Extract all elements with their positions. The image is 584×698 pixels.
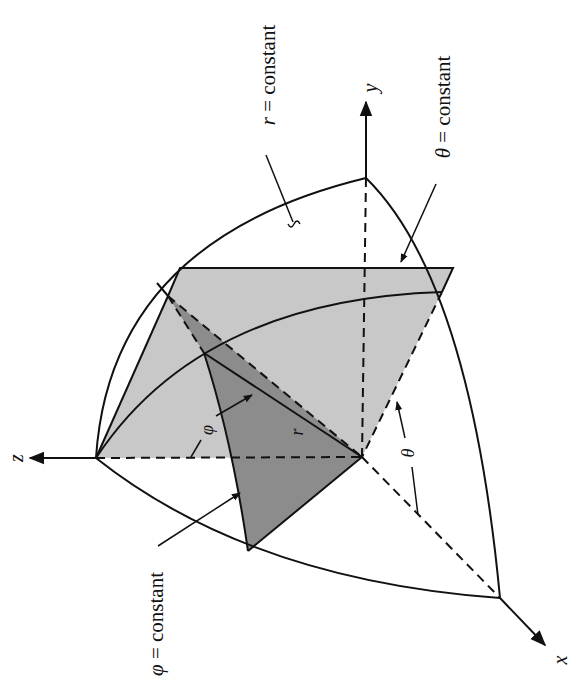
y-axis-label: y (359, 83, 382, 94)
x-axis-arrow (500, 598, 545, 645)
radius-label: r (287, 428, 307, 436)
r-constant-label: r = constant (256, 25, 280, 126)
z-axis-label: z (5, 454, 27, 463)
x-axis-dashed (362, 457, 500, 598)
x-axis-label: x (549, 655, 571, 665)
phi-constant-label: φ = constant (144, 572, 168, 676)
spherical-coordinates-diagram: z y x r = constant θ = constant φ = cons… (0, 0, 584, 698)
phi-angle-label: φ (197, 425, 217, 435)
theta-constant-label: θ = constant (431, 56, 455, 159)
squiggle-icon (288, 221, 300, 227)
theta-angle-label: θ (398, 448, 418, 457)
